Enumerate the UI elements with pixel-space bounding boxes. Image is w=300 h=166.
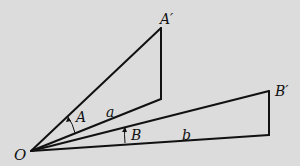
line-O-Aprime [31, 28, 161, 151]
label-A-prime: A′ [158, 11, 174, 27]
label-O: O [14, 146, 26, 164]
label-B: B [130, 127, 141, 143]
label-b: b [182, 127, 191, 143]
label-a: a [106, 104, 114, 120]
label-A: A [74, 109, 86, 125]
label-B-prime: B′ [274, 83, 289, 99]
angle-diagram: O A′ A a B′ B b [0, 0, 300, 166]
